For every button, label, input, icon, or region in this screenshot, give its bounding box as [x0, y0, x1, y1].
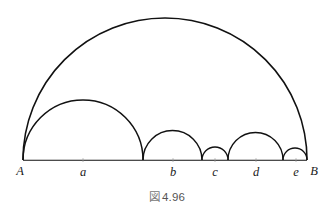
- semicircle-a: [23, 100, 143, 160]
- label-segment-e: e: [293, 165, 299, 179]
- arbelos-diagram: A a b c d e B: [0, 0, 334, 216]
- semicircle-big: [23, 18, 307, 160]
- semicircle-e: [283, 148, 307, 160]
- label-segment-d: d: [253, 165, 260, 179]
- label-point-A: A: [15, 164, 24, 178]
- semicircle-d: [228, 132, 283, 160]
- label-point-B: B: [310, 164, 318, 178]
- semicircle-c: [202, 147, 228, 160]
- figure-caption: 図4.96: [0, 188, 334, 204]
- label-segment-b: b: [170, 165, 176, 179]
- caption-number: 4.96: [162, 191, 185, 203]
- label-segment-a: a: [80, 165, 86, 179]
- semicircle-b: [143, 131, 202, 161]
- figure-container: A a b c d e B 図4.96: [0, 0, 334, 216]
- caption-symbol: 図: [149, 188, 160, 204]
- label-segment-c: c: [212, 165, 218, 179]
